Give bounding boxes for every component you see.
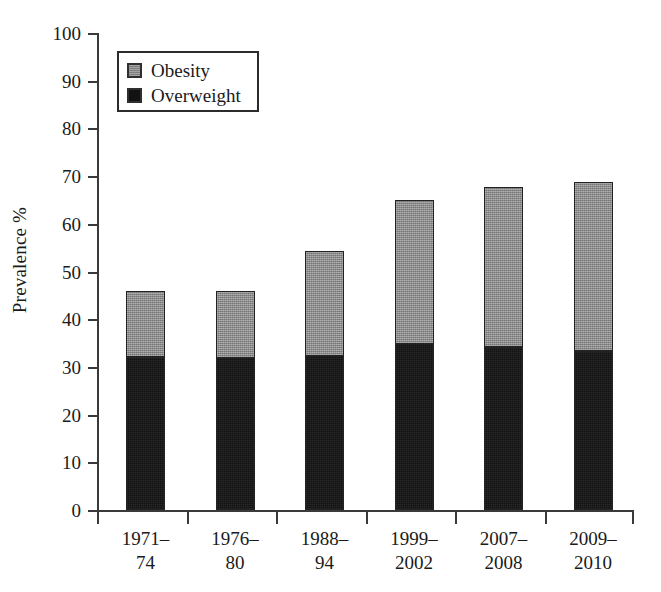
bar-group[interactable] xyxy=(574,33,613,510)
bar-segment-overweight[interactable] xyxy=(216,358,255,510)
y-axis-tick-label: 80 xyxy=(62,118,81,140)
bar-segment-obesity[interactable] xyxy=(305,251,344,356)
legend: ObesityOverweight xyxy=(117,51,259,112)
x-axis-tick-label: 2009–2010 xyxy=(548,527,638,575)
bar-segment-overweight[interactable] xyxy=(395,344,434,510)
bar-segment-obesity[interactable] xyxy=(484,187,523,347)
x-axis-tick-label: 1988–94 xyxy=(280,527,370,575)
x-axis-tick-label-line2: 94 xyxy=(280,551,370,575)
x-axis-tick-label-line2: 2008 xyxy=(459,551,549,575)
legend-item-overweight[interactable]: Overweight xyxy=(127,83,249,108)
x-axis-tick-label-line1: 1971– xyxy=(101,527,191,551)
x-axis-tick-label: 1976–80 xyxy=(190,527,280,575)
y-axis-tick-label: 100 xyxy=(53,23,82,45)
x-axis-tick-label: 2007–2008 xyxy=(459,527,549,575)
y-axis-tick-label: 0 xyxy=(72,500,82,522)
y-axis-tick-label: 90 xyxy=(62,71,81,93)
y-axis-tick-label: 60 xyxy=(62,214,81,236)
y-axis-tick: 70 xyxy=(88,176,97,178)
x-axis-tick-label-line1: 2009– xyxy=(548,527,638,551)
y-axis-tick: 20 xyxy=(88,415,97,417)
y-axis-tick-label: 70 xyxy=(62,166,81,188)
y-axis-tick: 100 xyxy=(88,33,97,35)
y-axis-tick: 90 xyxy=(88,81,97,83)
y-axis-tick-label: 20 xyxy=(62,405,81,427)
y-axis-tick: 10 xyxy=(88,462,97,464)
y-axis-title-text: Prevalence % xyxy=(9,207,31,313)
x-axis-tick-label-line1: 1988– xyxy=(280,527,370,551)
bar-segment-obesity[interactable] xyxy=(574,182,613,351)
y-axis-title: Prevalence % xyxy=(0,0,40,520)
y-axis-line xyxy=(97,33,99,511)
x-axis-tick-label-line2: 2010 xyxy=(548,551,638,575)
x-axis-tick xyxy=(455,511,457,524)
bar-segment-overweight[interactable] xyxy=(574,351,613,510)
y-axis-tick: 80 xyxy=(88,128,97,130)
x-axis-tick xyxy=(366,511,368,524)
x-axis-tick-label-line2: 74 xyxy=(101,551,191,575)
bar-segment-obesity[interactable] xyxy=(216,291,255,359)
bar-group[interactable] xyxy=(484,33,523,510)
x-axis-tick-label: 1999–2002 xyxy=(369,527,459,575)
y-axis-tick-label: 30 xyxy=(62,357,81,379)
bar-group[interactable] xyxy=(395,33,434,510)
bar-segment-obesity[interactable] xyxy=(126,291,165,358)
x-axis-tick-label-line1: 2007– xyxy=(459,527,549,551)
y-axis-tick: 40 xyxy=(88,319,97,321)
bar-segment-overweight[interactable] xyxy=(484,347,523,510)
x-axis-tick xyxy=(97,511,99,524)
y-axis-tick-label: 40 xyxy=(62,309,81,331)
x-axis-tick-label-line2: 2002 xyxy=(369,551,459,575)
legend-swatch-obesity xyxy=(127,63,142,78)
x-axis-tick xyxy=(187,511,189,524)
x-axis-tick xyxy=(545,511,547,524)
x-axis-tick-label: 1971–74 xyxy=(101,527,191,575)
y-axis-tick: 0 xyxy=(88,510,97,512)
bar-segment-obesity[interactable] xyxy=(395,200,434,344)
x-axis-tick xyxy=(276,511,278,524)
chart-figure: Prevalence % 0102030405060708090100 1971… xyxy=(0,0,661,592)
x-axis-tick-label-line1: 1999– xyxy=(369,527,459,551)
x-axis-tick xyxy=(632,511,634,524)
x-axis-tick-label-line1: 1976– xyxy=(190,527,280,551)
legend-label-obesity: Obesity xyxy=(151,60,210,82)
legend-item-obesity[interactable]: Obesity xyxy=(127,58,249,83)
legend-label-overweight: Overweight xyxy=(151,85,241,107)
y-axis-tick-label: 10 xyxy=(62,452,81,474)
y-axis-tick: 50 xyxy=(88,272,97,274)
y-axis-tick: 30 xyxy=(88,367,97,369)
x-axis-tick-label-line2: 80 xyxy=(190,551,280,575)
bar-segment-overweight[interactable] xyxy=(126,357,165,510)
bar-group[interactable] xyxy=(305,33,344,510)
y-axis-tick: 60 xyxy=(88,224,97,226)
y-axis-tick-label: 50 xyxy=(62,262,81,284)
legend-swatch-overweight xyxy=(127,88,142,103)
bar-segment-overweight[interactable] xyxy=(305,356,344,510)
